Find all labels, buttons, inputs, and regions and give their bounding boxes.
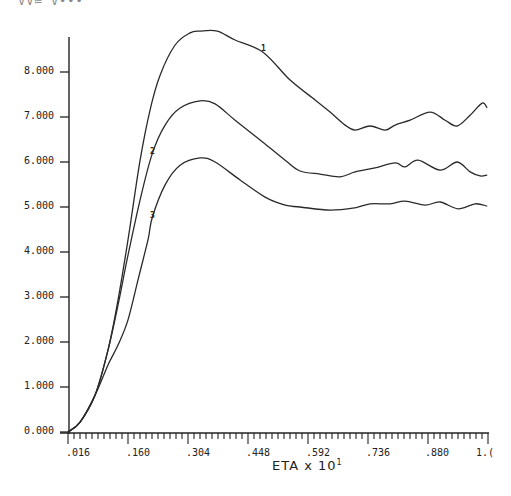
curve-1: [68, 30, 487, 432]
y-axis: [60, 37, 69, 434]
y-tick-label-4: 4.000: [4, 245, 54, 256]
curve-label-3: 3: [150, 211, 155, 220]
y-tick-label-2: 2.000: [4, 335, 54, 346]
x-axis: [60, 433, 489, 444]
curve-label-2: 2: [150, 147, 155, 156]
x-tick-label-6: .880: [425, 447, 449, 458]
x-tick-label-4: .592: [306, 447, 330, 458]
y-tick-label-3: 3.000: [4, 290, 54, 301]
y-tick-label-0: 0.000: [4, 425, 54, 436]
curve-3: [68, 158, 487, 432]
y-tick-label-7: 7.000: [4, 110, 54, 121]
x-tick-label-0: .016: [66, 447, 90, 458]
x-tick-label-1: .160: [126, 447, 150, 458]
x-tick-label-5: .736: [366, 447, 390, 458]
x-tick-label-3: .448: [246, 447, 270, 458]
y-tick-label-1: 1.000: [4, 380, 54, 391]
line-chart: [0, 0, 511, 496]
y-tick-label-5: 5.000: [4, 200, 54, 211]
curves: [68, 30, 487, 432]
y-tick-label-8: 8.000: [4, 65, 54, 76]
curve-2: [68, 101, 487, 432]
x-tick-label-7: 1.(: [476, 447, 494, 458]
y-tick-label-6: 6.000: [4, 155, 54, 166]
x-tick-label-2: .304: [186, 447, 210, 458]
x-axis-label: ETA x 101: [272, 458, 343, 473]
curve-label-1: 1: [261, 44, 266, 53]
